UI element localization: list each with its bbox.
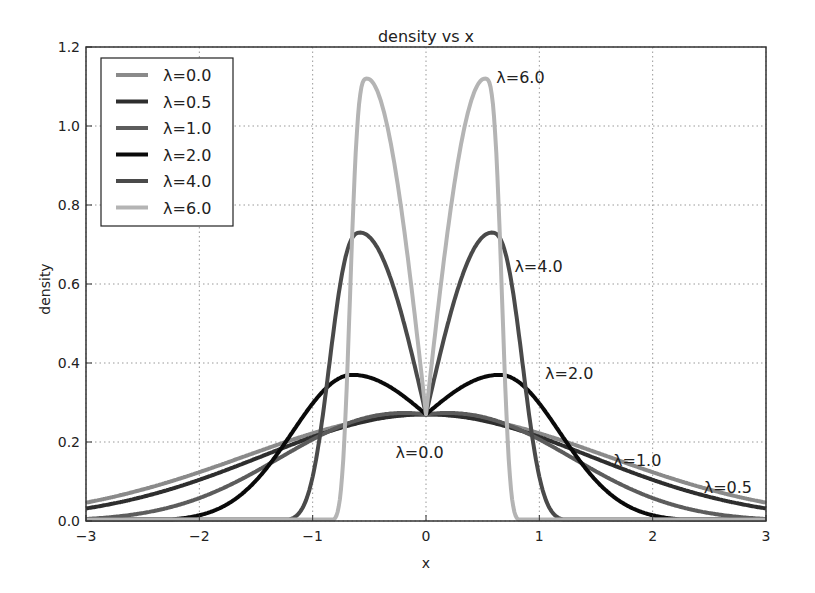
x-tick-label: 0 — [422, 528, 431, 544]
legend-label: λ=4.0 — [163, 172, 211, 191]
legend: λ=0.0λ=0.5λ=1.0λ=2.0λ=4.0λ=6.0 — [101, 58, 233, 226]
y-tick-label: 0.0 — [58, 513, 80, 529]
annotation-label: λ=4.0 — [514, 257, 562, 276]
chart-title: density vs x — [378, 27, 474, 46]
y-axis-label: density — [37, 263, 53, 314]
annotation-label: λ=0.5 — [704, 478, 752, 497]
y-tick-label: 0.8 — [58, 197, 80, 213]
curve-annotations: λ=6.0λ=4.0λ=2.0λ=0.0λ=1.0λ=0.5 — [395, 68, 752, 498]
annotation-label: λ=1.0 — [613, 451, 661, 470]
x-tick-label: 3 — [762, 528, 771, 544]
annotation-label: λ=2.0 — [545, 364, 593, 383]
y-tick-label: 0.6 — [58, 276, 80, 292]
x-tick-label: 2 — [648, 528, 657, 544]
x-axis-label: x — [422, 555, 430, 571]
y-tick-label: 0.2 — [58, 434, 80, 450]
y-tick-label: 1.0 — [58, 118, 80, 134]
legend-label: λ=0.0 — [163, 66, 211, 85]
x-tick-label: 1 — [535, 528, 544, 544]
y-tick-label: 0.4 — [58, 355, 80, 371]
legend-label: λ=1.0 — [163, 119, 211, 138]
y-tick-label: 1.2 — [58, 39, 80, 55]
x-tick-label: −3 — [76, 528, 97, 544]
density-chart: −3−2−10123 0.00.20.40.60.81.01.2 density… — [0, 0, 815, 593]
y-axis-ticks: 0.00.20.40.60.81.01.2 — [58, 39, 92, 529]
x-tick-label: −2 — [189, 528, 210, 544]
legend-label: λ=6.0 — [163, 199, 211, 218]
x-tick-label: −1 — [302, 528, 323, 544]
legend-label: λ=2.0 — [163, 146, 211, 165]
legend-label: λ=0.5 — [163, 93, 211, 112]
annotation-label: λ=0.0 — [395, 443, 443, 462]
annotation-label: λ=6.0 — [496, 68, 544, 87]
